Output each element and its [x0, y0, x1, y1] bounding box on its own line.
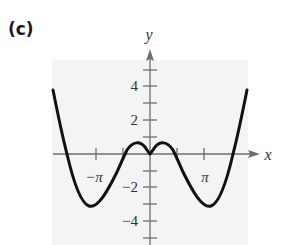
y-axis-label: y — [143, 26, 153, 44]
x-tick-label-neg-pi: −π — [85, 169, 103, 185]
y-tick-label-neg2: −2 — [122, 179, 138, 195]
y-tick-label-2: 2 — [131, 112, 139, 128]
y-tick-label-neg4: −4 — [122, 213, 138, 229]
x-axis-label: x — [263, 146, 271, 163]
y-tick-label-4: 4 — [131, 78, 139, 94]
chart-canvas: 4 2 −2 −4 −π π x y — [0, 0, 293, 245]
x-tick-label-pi: π — [201, 169, 209, 185]
